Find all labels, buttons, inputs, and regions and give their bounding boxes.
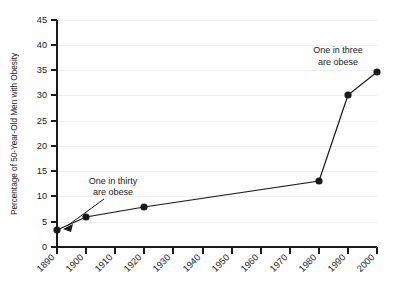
y-axis-title: Percentage of 50-Year-Old Men with Obesi… xyxy=(10,52,19,215)
y-tick-label-15: 15 xyxy=(37,166,47,176)
x-tick-label-1960: 1960 xyxy=(239,252,261,274)
x-tick-label-1950: 1950 xyxy=(210,252,232,274)
x-tick-label-1900: 1900 xyxy=(64,252,86,274)
x-tick-label-1940: 1940 xyxy=(181,252,203,274)
y-tick-label-45: 45 xyxy=(37,15,47,25)
data-point-1890[interactable] xyxy=(53,226,60,233)
y-tick-label-0: 0 xyxy=(42,242,47,252)
annotation-one-in-three: One in three are obese xyxy=(313,45,363,67)
y-tick-labels: 45 40 35 30 25 20 15 10 5 0 xyxy=(37,15,47,252)
annotation-one-in-thirty: One in thirty are obese xyxy=(63,176,138,232)
y-tick-marks xyxy=(51,20,57,247)
x-tick-marks xyxy=(57,247,377,254)
annotation-one-in-thirty-line1: One in thirty xyxy=(89,176,138,186)
x-tick-label-1910: 1910 xyxy=(93,252,115,274)
x-tick-label-2000: 2000 xyxy=(355,252,377,274)
y-tick-label-25: 25 xyxy=(37,116,47,126)
y-tick-label-30: 30 xyxy=(37,90,47,100)
y-tick-label-10: 10 xyxy=(37,191,47,201)
obesity-line-chart: 45 40 35 30 25 20 15 10 5 0 Percentage o… xyxy=(0,0,397,303)
data-point-1920[interactable] xyxy=(140,203,147,210)
obesity-trend-line xyxy=(57,72,377,230)
annotation-one-in-thirty-line2: are obese xyxy=(93,187,133,197)
y-tick-label-35: 35 xyxy=(37,65,47,75)
y-tick-label-5: 5 xyxy=(42,217,47,227)
data-point-2000[interactable] xyxy=(373,68,380,75)
x-tick-labels: 1890 1900 1910 1920 1930 1940 1950 1960 … xyxy=(35,252,377,274)
annotation-one-in-three-line1: One in three xyxy=(313,45,363,55)
chart-canvas: 45 40 35 30 25 20 15 10 5 0 Percentage o… xyxy=(0,0,397,303)
data-points xyxy=(53,68,380,233)
annotation-one-in-three-line2: are obese xyxy=(318,57,358,67)
x-tick-label-1970: 1970 xyxy=(268,252,290,274)
y-tick-label-40: 40 xyxy=(37,40,47,50)
data-point-1980[interactable] xyxy=(315,177,322,184)
data-point-1990[interactable] xyxy=(344,91,351,98)
x-tick-label-1920: 1920 xyxy=(122,252,144,274)
x-tick-label-1930: 1930 xyxy=(151,252,173,274)
x-tick-label-1890: 1890 xyxy=(35,252,57,274)
x-tick-label-1990: 1990 xyxy=(326,252,348,274)
x-tick-label-1980: 1980 xyxy=(297,252,319,274)
y-tick-label-20: 20 xyxy=(37,141,47,151)
